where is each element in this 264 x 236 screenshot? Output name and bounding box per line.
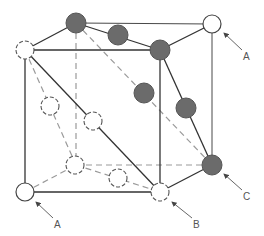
atom-front-top-right	[150, 40, 170, 60]
atom-front-bottom-left	[16, 183, 34, 201]
atom-top-face-center-edge	[108, 25, 128, 45]
back-top-edge	[76, 23, 212, 24]
atom-back-face-diagonal-center	[134, 83, 154, 103]
arrow-a-top	[224, 33, 242, 50]
label-a-bottom: A	[54, 219, 61, 230]
atom-front-top-left	[16, 41, 34, 59]
atom-back-top-left	[66, 13, 86, 33]
label-arrows	[36, 33, 242, 218]
atom-back-bottom-left	[66, 156, 84, 174]
atom-back-bottom-right	[202, 155, 222, 175]
atom-right-face-edge-mid	[176, 98, 196, 118]
arrow-b	[172, 202, 192, 218]
filled-atoms	[66, 13, 222, 175]
label-a-top: A	[243, 51, 250, 62]
label-b: B	[193, 219, 200, 230]
atom-front-bottom-right	[151, 183, 169, 201]
atom-front-face-diagonal-center	[84, 112, 102, 130]
atom-bottom-face-mid	[109, 169, 127, 187]
atom-left-face-mid	[41, 97, 59, 115]
label-c: C	[243, 191, 250, 202]
crystal-unit-cell-diagram: A A B C	[0, 0, 264, 236]
atom-back-top-right	[203, 15, 221, 33]
arrow-c	[224, 174, 242, 190]
arrow-a-bottom	[36, 202, 53, 218]
